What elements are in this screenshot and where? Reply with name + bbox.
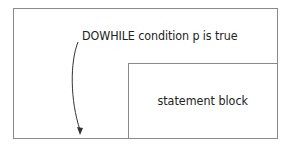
- loop-arrow-icon: [0, 0, 288, 149]
